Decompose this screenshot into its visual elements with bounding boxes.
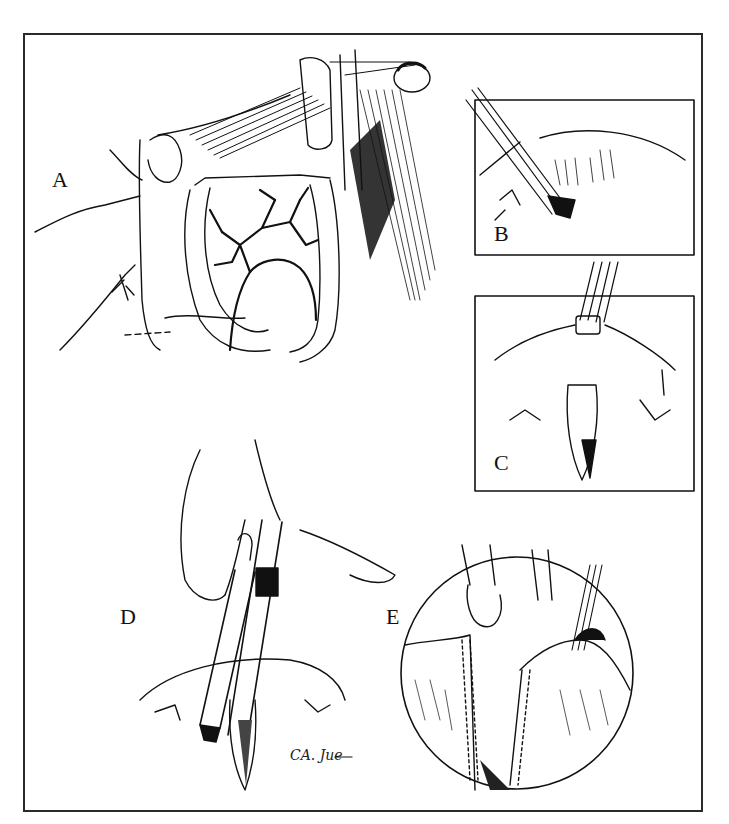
panel-e-drawing — [401, 545, 633, 790]
panel-label-e: E — [386, 604, 399, 629]
panel-label-b: B — [494, 221, 509, 246]
panel-label-a: A — [52, 167, 68, 192]
panel-label-c: C — [494, 450, 509, 475]
panel-a-drawing — [35, 50, 435, 362]
panel-d-drawing — [140, 440, 395, 790]
surgical-illustration: A B C — [0, 0, 729, 824]
panel-label-d: D — [120, 604, 136, 629]
artist-signature: CA. Jue — [290, 747, 343, 763]
